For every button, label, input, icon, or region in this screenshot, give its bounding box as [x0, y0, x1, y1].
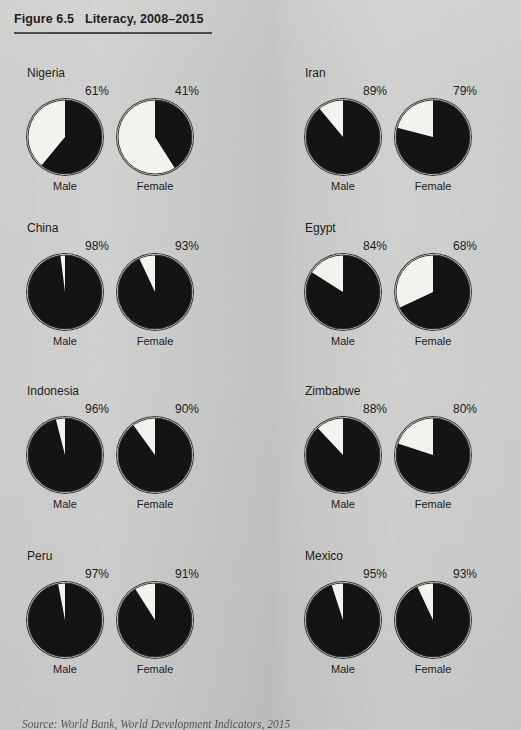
source-note: Source: World Bank, World Development In…	[22, 718, 290, 730]
pie-value-label: 95%	[352, 567, 398, 581]
source-label: Source:	[22, 718, 57, 730]
axis-label-male: Male	[303, 663, 383, 675]
pie-value-label: 93%	[442, 567, 488, 581]
axis-label-female: Female	[393, 663, 473, 675]
pie-mexico-male	[305, 582, 381, 658]
pie-mexico-female	[395, 582, 471, 658]
source-text: World Bank, World Development Indicators…	[60, 718, 290, 730]
country-label: Mexico	[305, 549, 343, 563]
